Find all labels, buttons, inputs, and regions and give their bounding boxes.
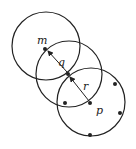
point-q [66, 72, 70, 76]
label-m: m [37, 34, 47, 47]
diagram-canvas: m q r p [0, 0, 136, 149]
point-2 [113, 82, 117, 86]
point-4 [88, 133, 92, 137]
point-p [88, 101, 92, 105]
label-p: p [96, 104, 103, 117]
point-m [43, 47, 47, 51]
label-r: r [83, 80, 89, 93]
point-1 [63, 101, 67, 105]
label-q: q [58, 56, 65, 69]
point-3 [118, 111, 122, 115]
